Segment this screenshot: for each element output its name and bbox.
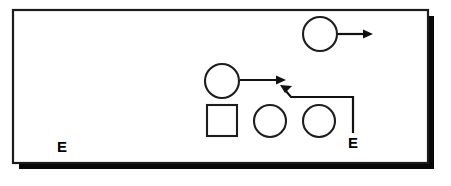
play-diagram-root: E E [0, 0, 451, 186]
play-diagram-canvas: E E [0, 0, 451, 186]
end-label-left: E [57, 138, 67, 155]
end-label-right: E [348, 134, 358, 151]
